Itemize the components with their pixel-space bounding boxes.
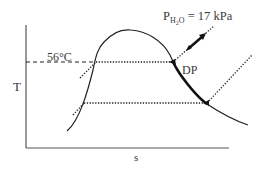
temperature-label: 56°C — [47, 51, 72, 63]
isobar-right-lower — [207, 55, 252, 103]
pressure-value: = 17 kPa — [185, 9, 233, 23]
saturation-dome — [67, 30, 248, 131]
pressure-subscript: H2O — [170, 16, 185, 25]
x-axis-label: s — [134, 152, 138, 163]
pressure-label: PH2O = 17 kPa — [163, 10, 232, 26]
ts-diagram-canvas — [0, 0, 266, 176]
y-axis-label: T — [13, 80, 21, 93]
pressure-symbol: P — [163, 9, 170, 23]
dew-point-label: DP — [182, 64, 197, 76]
